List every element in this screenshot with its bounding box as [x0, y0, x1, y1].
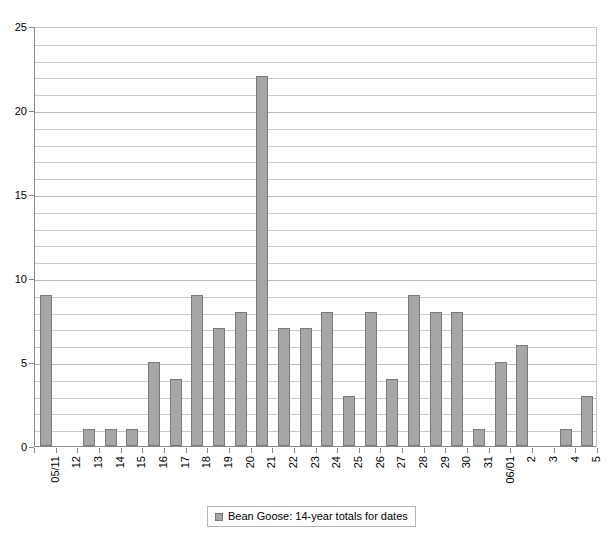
y-axis-tick-label: 25 [15, 22, 27, 33]
bar [170, 379, 182, 446]
bar [300, 328, 312, 446]
bar [235, 312, 247, 446]
bar [451, 312, 463, 446]
bar-slot [100, 28, 122, 446]
x-axis-tick-label: 18 [201, 456, 212, 468]
y-axis-tick-label: 0 [21, 442, 27, 453]
bar [495, 362, 507, 446]
x-axis-tick-mark [380, 448, 381, 453]
bar [581, 396, 593, 446]
bar-slot [490, 28, 512, 446]
bar [321, 312, 333, 446]
bar-slot [338, 28, 360, 446]
x-axis-tick-label: 26 [375, 456, 386, 468]
bar-slot [533, 28, 555, 446]
x-axis-tick-mark [316, 448, 317, 453]
x-axis-tick-mark [186, 448, 187, 453]
bar [191, 295, 203, 446]
bar-slot [230, 28, 252, 446]
x-axis-tick-label: 12 [71, 456, 82, 468]
x-axis-tick-label: 5 [591, 456, 602, 462]
bar [430, 312, 442, 446]
x-axis-tick-label: 4 [570, 456, 581, 462]
x-axis-tick-mark [207, 448, 208, 453]
x-axis-tick-label: 31 [483, 456, 494, 468]
x-axis-tick-mark [56, 448, 57, 453]
bar [365, 312, 377, 446]
x-axis-tick-label: 15 [136, 456, 147, 468]
y-axis-tick-label: 5 [21, 358, 27, 369]
bar-slot [122, 28, 144, 446]
bar-slot [273, 28, 295, 446]
bar-slot [360, 28, 382, 446]
plot-area [34, 27, 597, 447]
x-axis-tick-label: 30 [461, 456, 472, 468]
x-axis-tick-mark [294, 448, 295, 453]
legend-entry-label: Bean Goose: 14-year totals for dates [228, 511, 408, 522]
x-axis-tick-label: 23 [310, 456, 321, 468]
x-axis-tick-label: 13 [93, 456, 104, 468]
bar-slot [252, 28, 274, 446]
x-axis-tick-label: 2 [526, 456, 537, 462]
x-axis-tick-mark [337, 448, 338, 453]
x-axis-tick-label: 27 [396, 456, 407, 468]
bar [256, 76, 268, 446]
x-axis-tick-label: 29 [440, 456, 451, 468]
y-axis: 0510152025 [0, 0, 34, 448]
bar [213, 328, 225, 446]
x-axis-tick-mark [99, 448, 100, 453]
x-axis-tick-mark [164, 448, 165, 453]
x-axis-tick-mark [121, 448, 122, 453]
x-axis-tick-mark [34, 448, 35, 453]
bar-slot [468, 28, 490, 446]
bar-slot [208, 28, 230, 446]
x-axis-tick-label: 22 [288, 456, 299, 468]
x-axis-tick-mark [272, 448, 273, 453]
bar-slot [403, 28, 425, 446]
bar-slot [165, 28, 187, 446]
bar [386, 379, 398, 446]
x-axis-tick-label: 05/11 [50, 456, 61, 483]
x-axis-tick-label: 06/01 [505, 456, 516, 484]
bar-slot [295, 28, 317, 446]
x-axis-tick-mark [575, 448, 576, 453]
y-axis-tick-label: 10 [15, 274, 27, 285]
y-axis-tick-label: 15 [15, 190, 27, 201]
x-axis-tick-mark [510, 448, 511, 453]
x-axis-tick-mark [424, 448, 425, 453]
x-axis-tick-mark [402, 448, 403, 453]
bar [343, 396, 355, 446]
bar-slot [446, 28, 468, 446]
bar-slot [576, 28, 598, 446]
bar-slot [511, 28, 533, 446]
x-axis-tick-mark [467, 448, 468, 453]
x-axis-tick-label: 16 [158, 456, 169, 468]
x-axis-tick-label: 20 [245, 456, 256, 468]
bar-slot [425, 28, 447, 446]
x-axis-tick-label: 14 [115, 456, 126, 468]
x-axis-tick-label: 17 [180, 456, 191, 468]
bar-slot [555, 28, 577, 446]
x-axis-tick-mark [251, 448, 252, 453]
x-axis-tick-mark [597, 448, 598, 453]
x-axis-tick-label: 24 [331, 456, 342, 468]
x-axis-tick-mark [229, 448, 230, 453]
bar-slot [35, 28, 57, 446]
bar [278, 328, 290, 446]
x-axis-tick-mark [532, 448, 533, 453]
x-axis-tick-label: 25 [353, 456, 364, 468]
bar [516, 345, 528, 446]
y-axis-tick-label: 20 [15, 106, 27, 117]
bar-chart: 0510152025 05/11121314151617181920212223… [0, 0, 616, 543]
x-axis-tick-mark [554, 448, 555, 453]
x-axis-tick-label: 19 [223, 456, 234, 468]
chart-legend: Bean Goose: 14-year totals for dates [207, 506, 416, 527]
x-axis: 05/1112131415161718192021222324252627282… [34, 448, 598, 506]
bar [83, 429, 95, 446]
x-axis-tick-mark [142, 448, 143, 453]
x-axis-tick-label: 28 [418, 456, 429, 468]
bar-slot [317, 28, 339, 446]
bar [105, 429, 117, 446]
bar [148, 362, 160, 446]
bar-slot [57, 28, 79, 446]
